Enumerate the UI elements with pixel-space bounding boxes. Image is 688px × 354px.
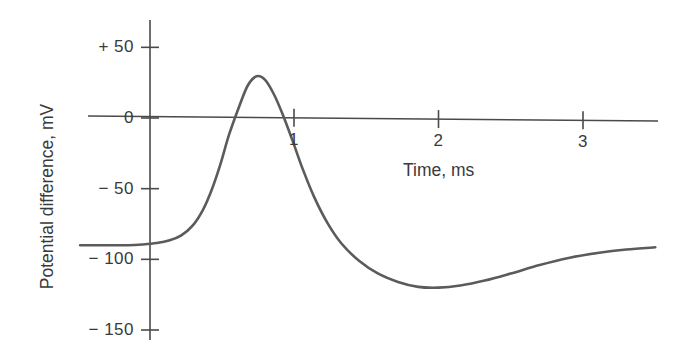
x-tick-label: 1 [289,130,299,150]
axes-group [88,20,658,340]
y-tick-label: − 150 [88,320,134,340]
x-axis-line [88,116,658,121]
y-tick-label: − 100 [88,249,134,269]
x-tick-label: 3 [578,132,588,152]
y-axis-title: Potential difference, mV [37,72,58,322]
x-ticks-group [294,109,583,130]
x-tick-label: 2 [434,131,444,151]
y-tick-label: 0 [124,108,134,128]
x-axis-title: Time, ms [403,160,474,181]
action-potential-figure: + 500− 50− 100− 150 123 Potential differ… [0,0,688,354]
data-series-group [80,76,655,288]
y-tick-label: + 50 [98,37,134,57]
y-tick-label: − 50 [98,179,134,199]
series-line-action-potential [80,76,655,288]
